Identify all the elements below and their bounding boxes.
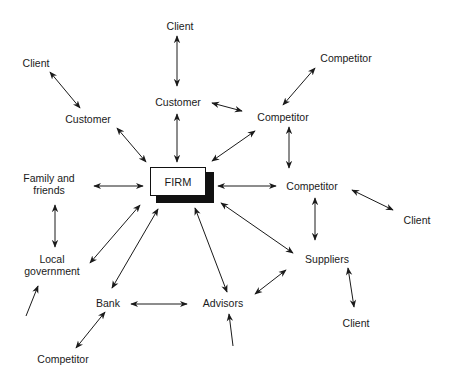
- node-competitor-bottom-left: Competitor: [37, 353, 88, 365]
- node-competitor-far-top-right: Competitor: [320, 52, 371, 64]
- node-client-left: Client: [23, 57, 50, 69]
- firm-label: FIRM: [165, 176, 192, 188]
- node-competitor-right: Competitor: [286, 180, 337, 192]
- node-bank: Bank: [96, 297, 120, 309]
- node-client-bottom-right: Client: [343, 317, 370, 329]
- node-competitor-upper: Competitor: [257, 111, 308, 123]
- node-local-government: Local government: [24, 253, 79, 277]
- family-line2: friends: [33, 184, 65, 196]
- node-customer-top: Customer: [155, 96, 201, 108]
- node-client-right: Client: [404, 214, 431, 226]
- local-line2: government: [24, 265, 79, 277]
- node-advisors: Advisors: [203, 297, 243, 309]
- node-customer-left: Customer: [65, 113, 111, 125]
- node-suppliers: Suppliers: [305, 253, 349, 265]
- node-client-top: Client: [167, 20, 194, 32]
- family-line1: Family and: [23, 172, 74, 184]
- node-family-friends: Family and friends: [23, 172, 74, 196]
- firm-node: FIRM: [150, 167, 206, 196]
- local-line1: Local: [39, 253, 64, 265]
